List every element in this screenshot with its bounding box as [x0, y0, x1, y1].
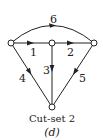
edge-5-arrow: [73, 68, 79, 75]
edge-label-5: 5: [79, 72, 86, 85]
edge-4-arrow: [26, 68, 32, 75]
edge-3-arrow: [50, 65, 55, 72]
node-left: [8, 40, 14, 46]
edge-label-1: 1: [30, 46, 37, 59]
node-mid: [49, 40, 55, 46]
node-bottom: [49, 104, 55, 110]
edge-1-arrow: [27, 41, 34, 46]
sublabel: (d): [44, 126, 60, 139]
edge-label-2: 2: [67, 46, 74, 59]
edge-label-4: 4: [19, 72, 26, 85]
caption: Cut-set 2: [29, 113, 75, 124]
edge-label-6: 6: [50, 13, 57, 26]
edge-label-3: 3: [43, 64, 50, 77]
edge-2-arrow: [67, 41, 74, 46]
node-right: [91, 40, 97, 46]
cut-set-diagram: 6 1 2 3 4 5 Cut-set 2 (d): [0, 0, 103, 140]
